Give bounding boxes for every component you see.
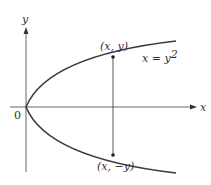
curve-equation-label: x = y2 — [142, 48, 178, 65]
curve-equation-base: x = y — [142, 52, 171, 65]
point-lower-label: (x, −y) — [97, 160, 134, 173]
origin-label: 0 — [14, 109, 21, 122]
x-axis-arrow-icon — [190, 105, 197, 110]
point-lower — [111, 153, 115, 157]
x-axis-label: x — [200, 101, 207, 114]
point-upper-label: (x, y) — [100, 40, 128, 53]
y-axis-arrow-icon — [24, 27, 29, 34]
parabola-diagram: x y 0 (x, y) (x, −y) x = y2 — [0, 0, 211, 185]
curve-equation-exponent: 2 — [170, 48, 178, 61]
point-upper — [111, 55, 115, 59]
y-axis-label: y — [21, 13, 29, 26]
